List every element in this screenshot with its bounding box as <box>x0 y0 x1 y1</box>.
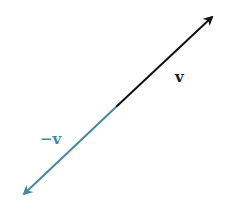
vector-v-label: v <box>175 70 184 85</box>
vector-v-arrow <box>116 17 212 107</box>
vector-diagram: v −v <box>0 0 228 204</box>
vector-arrows <box>0 0 228 204</box>
vector-negative-v-arrow <box>24 107 116 194</box>
vector-negative-v-label: −v <box>40 132 61 147</box>
